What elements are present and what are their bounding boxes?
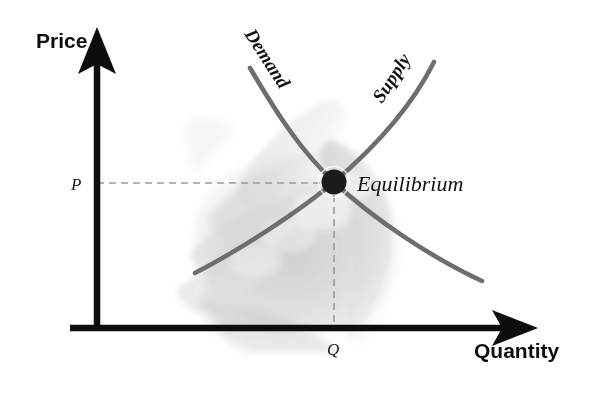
equilibrium-label: Equilibrium [356, 171, 463, 196]
y-axis-label: Price [36, 29, 87, 52]
quantity-tick-label: Q [327, 340, 339, 359]
price-tick-label: P [70, 175, 81, 194]
supply-demand-figure: Price Quantity P Q Demand Supply Equilib… [0, 0, 590, 394]
demand-curve-label: Demand [240, 24, 295, 92]
x-axis-label: Quantity [474, 339, 559, 362]
supply-curve-label: Supply [368, 49, 415, 106]
equilibrium-point-dot [322, 170, 347, 195]
diagram-canvas: Price Quantity P Q Demand Supply Equilib… [0, 0, 590, 394]
